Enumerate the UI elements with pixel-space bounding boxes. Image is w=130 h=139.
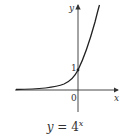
caption-equals: = xyxy=(53,120,71,134)
x-axis-label: x xyxy=(114,93,119,103)
function-caption: y = 4x xyxy=(0,119,130,134)
caption-base: 4 xyxy=(71,120,79,134)
y-intercept-label: 1 xyxy=(71,63,77,73)
y-axis-label: y xyxy=(68,3,75,13)
origin-label: 0 xyxy=(71,93,77,103)
exponential-curve xyxy=(16,5,100,90)
y-intercept-point xyxy=(77,69,80,72)
caption-exponent: x xyxy=(79,119,84,128)
